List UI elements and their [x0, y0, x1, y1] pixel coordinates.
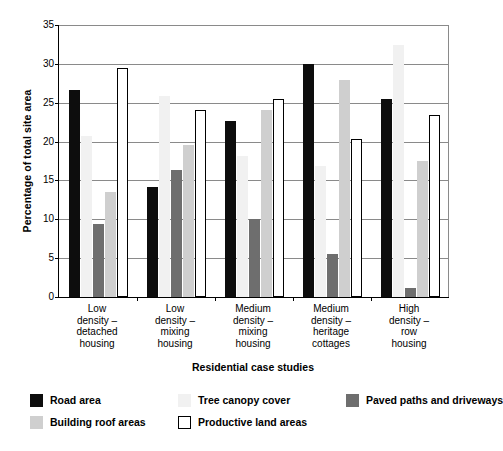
legend-item-productive[interactable]: Productive land areas — [178, 416, 307, 429]
x-tick-label-line: housing — [58, 338, 136, 350]
x-tick-label-line: housing — [214, 338, 292, 350]
x-tick-label: Lowdensity –mixinghousing — [136, 303, 214, 349]
bar-productive — [195, 110, 206, 297]
bar-building — [339, 80, 350, 297]
legend-swatch-icon — [30, 394, 43, 407]
y-tick-label: 30 — [34, 59, 54, 69]
bar-group — [137, 25, 215, 297]
x-tick-label-line: mixing — [214, 326, 292, 338]
chart-legend: Road areaTree canopy coverPaved paths an… — [30, 394, 450, 434]
legend-label: Tree canopy cover — [198, 394, 290, 407]
x-tick-label-line: Medium — [292, 303, 370, 315]
x-tick-label-line: housing — [136, 338, 214, 350]
bar-paved — [405, 288, 416, 297]
y-tick-mark — [55, 297, 59, 298]
legend-label: Paved paths and driveways — [366, 394, 503, 407]
bar-paved — [249, 219, 260, 297]
bar-building — [261, 110, 272, 297]
x-tick-label-line: row — [370, 326, 448, 338]
y-tick-mark — [55, 103, 59, 104]
x-tick-label-line: density – — [214, 315, 292, 327]
x-tick-label: Highdensity –rowhousing — [370, 303, 448, 349]
bar-building — [183, 145, 194, 297]
bar-road — [147, 187, 158, 297]
bar-productive — [273, 99, 284, 297]
x-tick-label-line: density – — [136, 315, 214, 327]
x-tick-label-line: Low — [58, 303, 136, 315]
x-tick-label: Mediumdensity –heritagecottages — [292, 303, 370, 349]
legend-swatch-icon — [30, 416, 43, 429]
bar-paved — [93, 224, 104, 297]
y-tick-label: 5 — [34, 253, 54, 263]
legend-label: Road area — [50, 394, 101, 407]
legend-label: Building roof areas — [50, 416, 146, 429]
x-tick-mark — [215, 297, 216, 301]
y-tick-label: 10 — [34, 214, 54, 224]
y-tick-label: 20 — [34, 137, 54, 147]
y-axis-title-text: Percentage of total site area — [21, 90, 33, 233]
bar-paved — [171, 170, 182, 297]
y-tick-mark — [55, 180, 59, 181]
bar-tree — [81, 136, 92, 297]
bar-group — [371, 25, 449, 297]
y-tick-label: 35 — [34, 20, 54, 30]
x-tick-label-line: Medium — [214, 303, 292, 315]
bar-tree — [237, 156, 248, 297]
bar-productive — [351, 139, 362, 297]
bars-layer — [59, 25, 449, 297]
bar-tree — [393, 45, 404, 297]
legend-swatch-icon — [178, 394, 191, 407]
x-tick-label-line: density – — [58, 315, 136, 327]
bar-tree — [315, 166, 326, 297]
legend-item-paved[interactable]: Paved paths and driveways — [346, 394, 503, 407]
legend-item-building[interactable]: Building roof areas — [30, 416, 146, 429]
legend-item-road[interactable]: Road area — [30, 394, 101, 407]
x-tick-mark — [137, 297, 138, 301]
x-tick-label-line: mixing — [136, 326, 214, 338]
x-tick-label: Lowdensity –detachedhousing — [58, 303, 136, 349]
y-tick-label: 0 — [34, 292, 54, 302]
legend-item-tree[interactable]: Tree canopy cover — [178, 394, 290, 407]
x-tick-label-line: heritage — [292, 326, 370, 338]
x-axis-title: Residential case studies — [58, 361, 448, 373]
bar-building — [105, 192, 116, 297]
x-tick-label-line: High — [370, 303, 448, 315]
x-tick-label-line: density – — [292, 315, 370, 327]
x-tick-label-line: density – — [370, 315, 448, 327]
legend-swatch-icon — [346, 394, 359, 407]
bar-road — [69, 90, 80, 297]
bar-group — [293, 25, 371, 297]
bar-tree — [159, 96, 170, 297]
y-tick-mark — [55, 25, 59, 26]
bar-paved — [327, 254, 338, 297]
x-tick-label-line: housing — [370, 338, 448, 350]
x-axis-tick-labels: Lowdensity –detachedhousingLowdensity –m… — [58, 303, 448, 361]
x-tick-label-line: cottages — [292, 338, 370, 350]
bar-road — [303, 64, 314, 297]
y-tick-mark — [55, 219, 59, 220]
y-tick-mark — [55, 258, 59, 259]
bar-group — [215, 25, 293, 297]
bar-road — [381, 99, 392, 297]
bar-building — [417, 161, 428, 297]
bar-productive — [117, 68, 128, 297]
plot-area — [58, 25, 449, 298]
legend-swatch-icon — [178, 416, 191, 429]
bar-group — [59, 25, 137, 297]
x-tick-label-line: detached — [58, 326, 136, 338]
y-tick-label: 25 — [34, 98, 54, 108]
bar-road — [225, 121, 236, 297]
y-tick-mark — [55, 142, 59, 143]
x-tick-label: Mediumdensity –mixinghousing — [214, 303, 292, 349]
y-axis-tick-labels: 05101520253035 — [34, 25, 54, 297]
x-tick-mark — [293, 297, 294, 301]
x-tick-mark — [371, 297, 372, 301]
y-tick-mark — [55, 64, 59, 65]
bar-productive — [429, 115, 440, 297]
x-tick-label-line: Low — [136, 303, 214, 315]
y-tick-label: 15 — [34, 175, 54, 185]
legend-label: Productive land areas — [198, 416, 307, 429]
